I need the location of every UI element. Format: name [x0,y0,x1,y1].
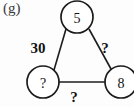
edge-label-right: ? [101,40,109,56]
edge-label-left: 30 [31,40,46,56]
node-label-top: 5 [74,11,81,26]
edge-line-left [54,29,66,70]
graph-diagram: 5 ? 8 30 ? ? [0,0,134,107]
figure-canvas: (g) 5 ? 8 30 ? ? [0,0,134,107]
node-label-bottom-right: 8 [118,76,125,91]
node-label-bottom-left: ? [40,76,46,91]
edge-label-bottom: ? [70,89,78,105]
